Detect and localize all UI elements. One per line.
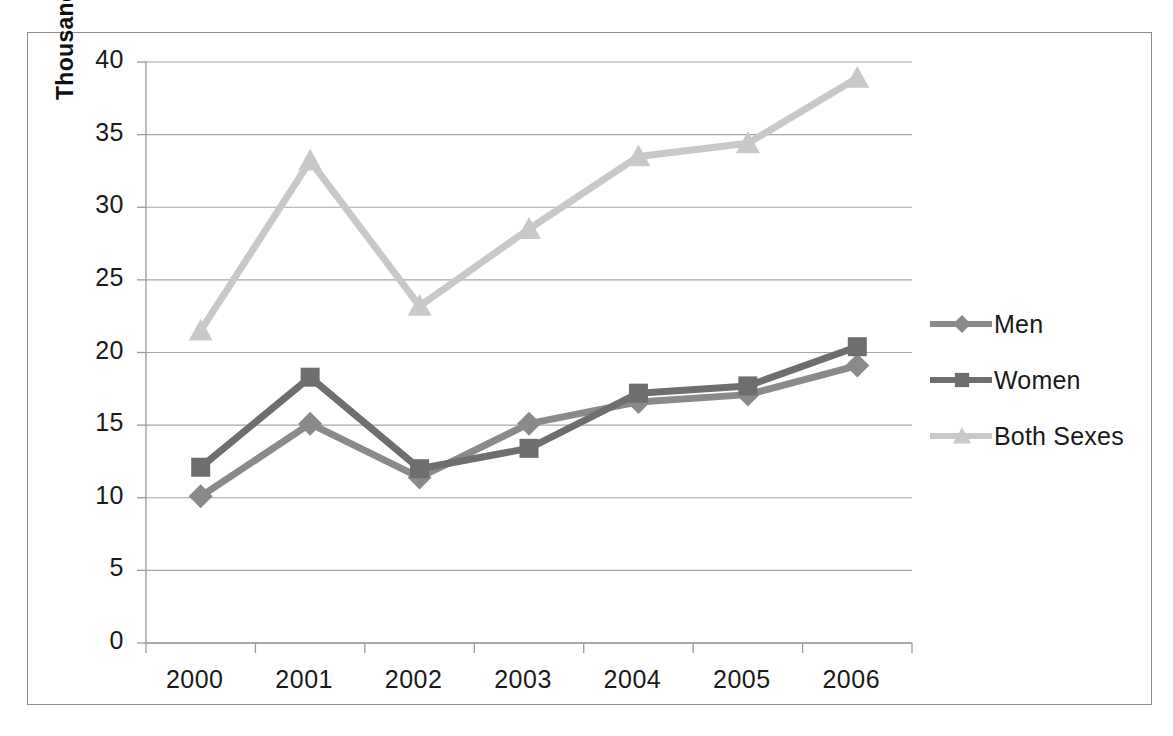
data-marker-square bbox=[520, 439, 539, 458]
gridlines bbox=[146, 62, 912, 643]
x-tick-label: 2003 bbox=[463, 665, 583, 694]
data-marker-triangle bbox=[845, 66, 869, 88]
legend-key-diamond-icon bbox=[930, 311, 992, 337]
y-tick-label: 25 bbox=[74, 263, 124, 292]
data-marker-diamond bbox=[845, 354, 869, 378]
legend-key-square-icon bbox=[930, 367, 992, 393]
legend-item-label: Women bbox=[992, 366, 1081, 395]
legend-key-marker bbox=[953, 315, 971, 333]
legend-key-marker bbox=[953, 427, 971, 445]
x-tick-label: 2005 bbox=[682, 665, 802, 694]
data-marker-triangle bbox=[298, 149, 322, 171]
y-tick-label: 0 bbox=[74, 626, 124, 655]
series-women bbox=[191, 337, 867, 478]
data-marker-diamond bbox=[953, 315, 971, 333]
data-marker-square bbox=[738, 376, 757, 395]
y-tick-label: 10 bbox=[74, 481, 124, 510]
legend-item-label: Both Sexes bbox=[992, 422, 1124, 451]
x-tick-label: 2000 bbox=[135, 665, 255, 694]
series-both-sexes bbox=[189, 66, 870, 341]
legend-item-label: Men bbox=[992, 310, 1043, 339]
y-tick-label: 35 bbox=[74, 118, 124, 147]
axes bbox=[137, 61, 912, 653]
legend-item-women[interactable]: Women bbox=[930, 352, 1124, 408]
y-tick-label: 20 bbox=[74, 336, 124, 365]
data-marker-square bbox=[848, 337, 867, 356]
legend-key-triangle-icon bbox=[930, 423, 992, 449]
y-tick-label: 40 bbox=[74, 45, 124, 74]
x-tick-label: 2006 bbox=[791, 665, 911, 694]
data-marker-triangle bbox=[953, 427, 971, 443]
y-tick-label: 5 bbox=[74, 553, 124, 582]
data-marker-square bbox=[301, 368, 320, 387]
data-marker-diamond bbox=[517, 412, 541, 436]
x-tick-label: 2001 bbox=[244, 665, 364, 694]
data-marker-square bbox=[629, 384, 648, 403]
legend-key-marker bbox=[953, 371, 971, 389]
x-tick-label: 2004 bbox=[572, 665, 692, 694]
data-marker-square bbox=[410, 459, 429, 478]
legend-item-both-sexes[interactable]: Both Sexes bbox=[930, 408, 1124, 464]
data-marker-square bbox=[955, 373, 969, 387]
y-tick-label: 30 bbox=[74, 190, 124, 219]
series-line bbox=[201, 78, 858, 331]
data-marker-square bbox=[191, 458, 210, 477]
chart-legend: MenWomenBoth Sexes bbox=[930, 296, 1124, 464]
legend-item-men[interactable]: Men bbox=[930, 296, 1124, 352]
x-tick-label: 2002 bbox=[354, 665, 474, 694]
y-tick-label: 15 bbox=[74, 408, 124, 437]
